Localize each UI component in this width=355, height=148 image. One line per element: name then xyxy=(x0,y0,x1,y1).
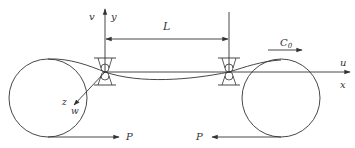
label-C0: C0 xyxy=(280,37,293,50)
label-C0-sub: 0 xyxy=(288,42,293,50)
string-middle-span xyxy=(105,72,229,80)
string-roller-diagram: v y L C0 u x z w P P xyxy=(0,0,355,148)
label-L: L xyxy=(162,20,170,33)
label-x: x xyxy=(340,79,346,90)
label-y: y xyxy=(110,11,117,22)
label-v: v xyxy=(89,11,95,22)
right-roller xyxy=(242,59,320,137)
label-u: u xyxy=(340,57,346,68)
label-z: z xyxy=(61,97,67,107)
left-roller xyxy=(9,59,87,137)
string-left-span xyxy=(48,59,105,72)
label-w: w xyxy=(71,106,79,116)
label-P-right: P xyxy=(195,131,203,142)
string-right-span xyxy=(229,60,281,72)
label-P-left: P xyxy=(125,131,133,142)
